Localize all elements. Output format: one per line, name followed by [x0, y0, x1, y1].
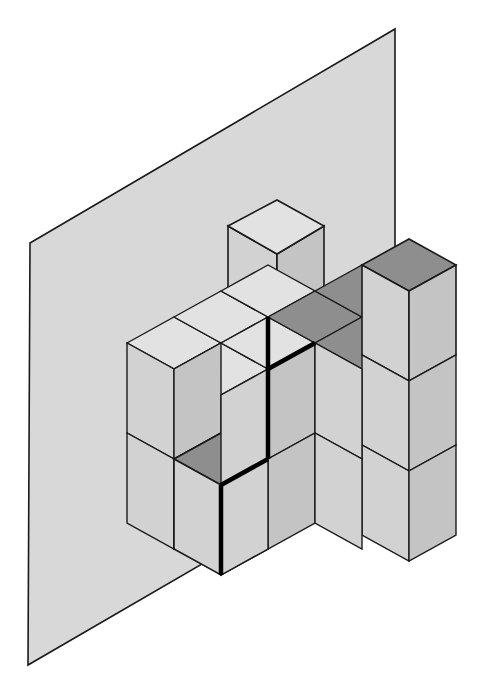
figure-canvas: Isometric unit-cube stack against a back… [0, 0, 499, 693]
isometric-diagram: Isometric unit-cube stack against a back… [0, 0, 499, 693]
